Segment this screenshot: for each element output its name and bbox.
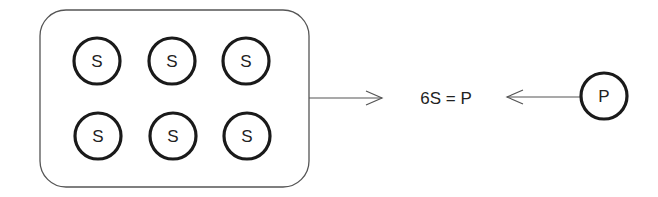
s-node-label: S	[240, 52, 251, 71]
s-node: S	[223, 38, 269, 84]
left-arrow	[507, 90, 581, 104]
s-node: S	[224, 113, 270, 159]
equation-label: 6S = P	[420, 89, 472, 108]
p-node-label: P	[598, 87, 609, 106]
s-node-label: S	[241, 127, 252, 146]
s-node-label: S	[92, 127, 103, 146]
p-node: P	[581, 73, 627, 119]
s-node-label: S	[166, 52, 177, 71]
s-node: S	[74, 38, 120, 84]
right-arrow	[309, 91, 382, 105]
s-node: S	[75, 113, 121, 159]
s-node-label: S	[91, 52, 102, 71]
diagram-canvas: S S S S S S 6S = P P	[0, 0, 658, 197]
s-node-label: S	[167, 127, 178, 146]
s-node: S	[150, 113, 196, 159]
s-node: S	[149, 38, 195, 84]
